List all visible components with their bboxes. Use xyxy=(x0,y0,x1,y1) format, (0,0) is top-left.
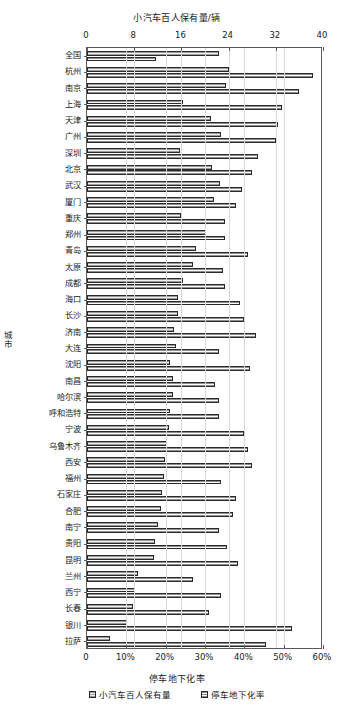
axis-tick-label: 8 xyxy=(130,30,135,40)
bar-car-ownership xyxy=(87,67,229,72)
category-label: 郑州 xyxy=(65,230,81,238)
category-label: 宁波 xyxy=(65,425,81,433)
bar-underground-rate xyxy=(87,284,225,289)
category-label: 重庆 xyxy=(65,214,81,222)
bar-underground-rate xyxy=(87,219,225,224)
bar-row xyxy=(87,146,321,162)
bar-row xyxy=(87,617,321,633)
bar-underground-rate xyxy=(87,203,236,208)
category-label: 西安 xyxy=(65,458,81,466)
bar-row xyxy=(87,503,321,519)
category-label: 青岛 xyxy=(65,246,81,254)
category-label: 厦门 xyxy=(65,197,81,205)
axis-tickmark xyxy=(205,645,206,649)
category-label: 武汉 xyxy=(65,181,81,189)
category-label: 长春 xyxy=(65,604,81,612)
bar-car-ownership xyxy=(87,230,206,235)
bar-underground-rate xyxy=(87,301,240,306)
legend-swatch-cars xyxy=(89,691,96,698)
category-label: 广州 xyxy=(65,132,81,140)
bar-car-ownership xyxy=(87,571,138,576)
bar-car-ownership xyxy=(87,490,162,495)
bar-row xyxy=(87,259,321,275)
bar-row xyxy=(87,81,321,97)
bar-car-ownership xyxy=(87,132,221,137)
bar-row xyxy=(87,178,321,194)
bottom-axis-title: 停车地下化率 xyxy=(0,672,354,685)
category-label: 全国 xyxy=(65,51,81,59)
axis-tickmark xyxy=(323,645,324,649)
bar-car-ownership xyxy=(87,636,110,641)
bar-row xyxy=(87,341,321,357)
top-axis-ticks: 0816243240 xyxy=(86,30,322,42)
axis-tick-label: 32 xyxy=(269,30,280,40)
axis-tick-label: 30% xyxy=(195,652,214,662)
bar-car-ownership xyxy=(87,311,178,316)
bar-row xyxy=(87,406,321,422)
category-label: 福州 xyxy=(65,474,81,482)
bar-row xyxy=(87,373,321,389)
chart-legend: 小汽车百人保有量 停车地下化率 xyxy=(0,688,354,700)
bar-underground-rate xyxy=(87,528,219,533)
bar-underground-rate xyxy=(87,57,156,62)
bar-underground-rate xyxy=(87,447,248,452)
axis-tick-label: 0 xyxy=(83,30,88,40)
legend-label-underground: 停车地下化率 xyxy=(211,688,265,700)
category-label: 深圳 xyxy=(65,149,81,157)
bar-car-ownership xyxy=(87,392,173,397)
bar-underground-rate xyxy=(87,333,256,338)
gridline xyxy=(126,48,127,648)
category-label: 哈尔滨 xyxy=(57,393,81,401)
axis-tickmark xyxy=(284,645,285,649)
legend-item-cars: 小汽车百人保有量 xyxy=(89,688,171,700)
bar-underground-rate xyxy=(87,414,219,419)
axis-tickmark xyxy=(229,47,230,51)
axis-tick-label: 60% xyxy=(313,652,332,662)
bar-underground-rate xyxy=(87,105,282,110)
category-label: 太原 xyxy=(65,263,81,271)
bar-underground-rate xyxy=(87,170,252,175)
bar-row xyxy=(87,357,321,373)
bottom-axis-ticks: 010%20%30%40%50%60% xyxy=(86,652,322,664)
bar-underground-rate xyxy=(87,382,215,387)
legend-swatch-underground xyxy=(201,691,208,698)
bar-row xyxy=(87,64,321,80)
bar-car-ownership xyxy=(87,620,127,625)
gridline xyxy=(134,48,135,648)
gridline xyxy=(276,48,277,648)
bar-row xyxy=(87,471,321,487)
bar-row xyxy=(87,325,321,341)
bar-underground-rate xyxy=(87,610,209,615)
axis-tick-label: 16 xyxy=(175,30,186,40)
bar-car-ownership xyxy=(87,409,170,414)
bar-underground-rate xyxy=(87,626,292,631)
bar-row xyxy=(87,292,321,308)
bar-underground-rate xyxy=(87,252,248,257)
bar-underground-rate xyxy=(87,593,221,598)
bar-row xyxy=(87,634,321,650)
bar-car-ownership xyxy=(87,506,161,511)
bar-car-ownership xyxy=(87,588,135,593)
bar-car-ownership xyxy=(87,51,219,56)
bar-underground-rate xyxy=(87,154,258,159)
plot-area xyxy=(86,47,322,649)
axis-tick-label: 40% xyxy=(234,652,253,662)
bar-car-ownership xyxy=(87,376,173,381)
axis-tickmark xyxy=(244,645,245,649)
category-label: 拉萨 xyxy=(65,637,81,645)
gridline xyxy=(181,48,182,648)
bar-car-ownership xyxy=(87,555,154,560)
bar-row xyxy=(87,276,321,292)
bar-row xyxy=(87,601,321,617)
top-axis-title: 小汽车百人保有量/辆 xyxy=(0,11,354,24)
bar-underground-rate xyxy=(87,268,223,273)
bar-row xyxy=(87,552,321,568)
category-label: 天津 xyxy=(65,116,81,124)
bar-row xyxy=(87,48,321,64)
gridline xyxy=(244,48,245,648)
bar-car-ownership xyxy=(87,522,158,527)
bar-car-ownership xyxy=(87,327,174,332)
category-label: 合肥 xyxy=(65,507,81,515)
bar-rows xyxy=(87,48,321,648)
bar-car-ownership xyxy=(87,197,214,202)
